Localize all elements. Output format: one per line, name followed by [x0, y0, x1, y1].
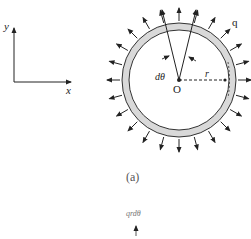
- load-arrow: [209, 131, 216, 142]
- radius-label: r: [205, 68, 209, 79]
- coordinate-axes: [14, 28, 71, 82]
- load-arrow: [194, 137, 197, 150]
- load-arrow: [109, 61, 122, 64]
- load-arrow: [160, 137, 163, 150]
- load-arrow: [221, 29, 230, 38]
- center-label: O: [173, 83, 181, 95]
- load-arrow: [143, 131, 150, 142]
- load-label: q: [232, 16, 238, 28]
- load-arrow: [230, 44, 241, 51]
- inset-label: qrdθ: [126, 209, 141, 218]
- y-axis-label: y: [4, 20, 9, 32]
- load-arrow: [109, 95, 122, 98]
- x-axis-label: x: [66, 84, 71, 96]
- load-arrow: [143, 18, 150, 29]
- load-arrow: [230, 110, 241, 117]
- load-arrow: [117, 44, 128, 51]
- diagram-canvas: [0, 0, 251, 239]
- figure-caption: (a): [126, 170, 139, 185]
- load-arrow: [236, 95, 249, 98]
- load-arrow: [128, 122, 137, 131]
- radius-line: [177, 62, 230, 98]
- load-arrow: [117, 110, 128, 117]
- load-arrow: [236, 61, 249, 64]
- load-arrow: [128, 29, 137, 38]
- angle-label: dθ: [155, 71, 165, 82]
- load-arrow: [209, 18, 216, 29]
- load-arrow: [221, 122, 230, 131]
